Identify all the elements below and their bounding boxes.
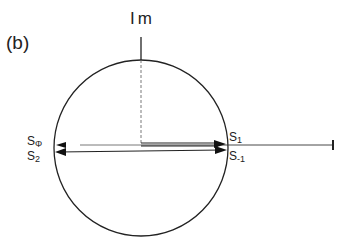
panel-label: (b)	[6, 33, 29, 52]
arrowhead-sm1	[215, 146, 227, 154]
label-s1: S1	[229, 131, 242, 145]
imaginary-axis-label: Im	[130, 10, 155, 27]
label-s-minus1: S-1	[229, 150, 245, 164]
diagram-canvas	[0, 0, 348, 240]
label-s-phi: SΦ	[27, 135, 42, 149]
label-s2: S2	[27, 150, 40, 164]
vector-s2-sm1	[58, 150, 222, 152]
arrowhead-s2	[55, 148, 66, 156]
arrowhead-s0	[56, 142, 66, 148]
